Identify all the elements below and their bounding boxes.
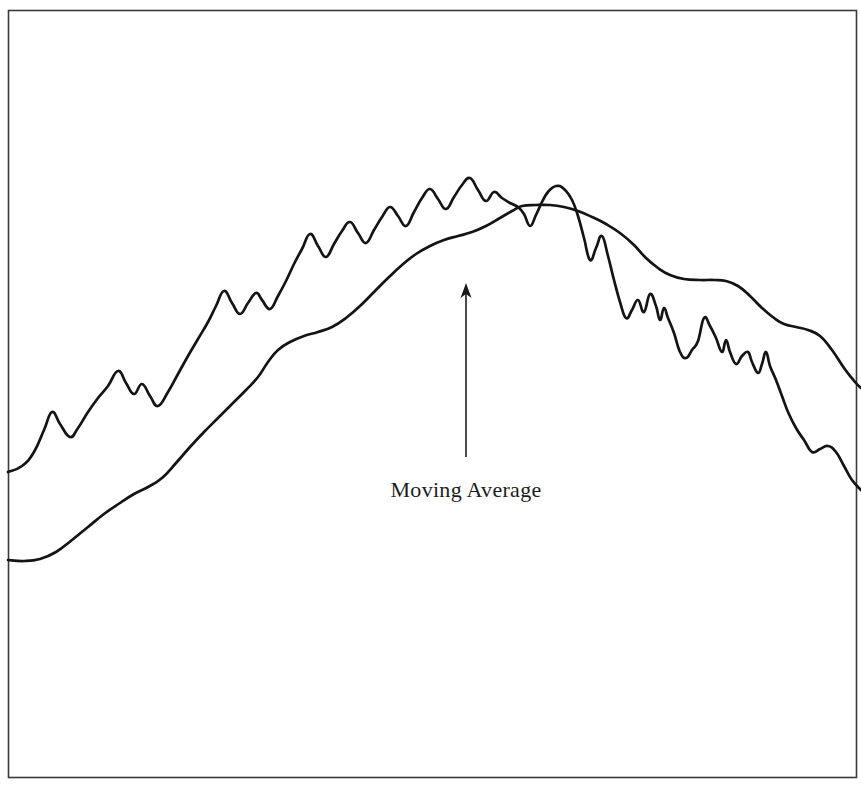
series-group bbox=[8, 178, 861, 561]
moving-average-line bbox=[8, 205, 861, 561]
chart-canvas: Moving Average bbox=[0, 0, 861, 788]
annotation-arrow bbox=[461, 283, 472, 457]
price-line bbox=[8, 178, 861, 490]
chart-figure: Moving Average bbox=[0, 0, 861, 788]
moving-average-label: Moving Average bbox=[390, 477, 541, 502]
